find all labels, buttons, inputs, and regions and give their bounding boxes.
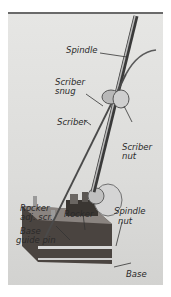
scriber-hook	[126, 50, 156, 74]
scriber-nut	[113, 90, 129, 108]
label-scriber-nut-2: nut	[122, 152, 136, 161]
label-scriber-snug-2: snug	[55, 87, 76, 96]
label-rocker: Rocker	[64, 210, 93, 219]
label-scriber: Scriber	[57, 118, 87, 127]
label-spindle: Spindle	[66, 46, 98, 55]
surface-gauge-photo: Spindle Scriber snug Scriber Scriber nut…	[8, 12, 163, 285]
label-base-guide-2: guide pin	[16, 236, 56, 245]
label-spindle-nut-2: nut	[118, 217, 132, 226]
label-spindle-nut-1: Spindle	[114, 207, 146, 216]
label-rocker-adj-2: adj. scr.	[20, 213, 53, 222]
label-base: Base	[126, 270, 147, 279]
